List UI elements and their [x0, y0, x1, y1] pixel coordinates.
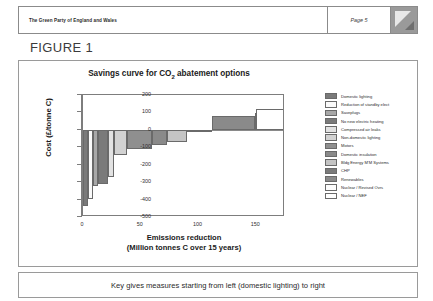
legend-item: Domestic lighting	[325, 92, 413, 100]
legend-swatch	[325, 93, 337, 99]
bar-renewables	[212, 116, 255, 130]
chart-container: Savings curve for CO2 abatement options …	[18, 60, 418, 267]
chart-title: Savings curve for CO2 abatement options	[19, 69, 319, 80]
y-tick-label: -300	[111, 178, 151, 184]
chart-title-prefix: Savings curve for CO	[88, 69, 171, 78]
x-tick-label: 50	[125, 221, 155, 227]
y-tick-label: 100	[111, 108, 151, 114]
figure-label: FIGURE 1	[30, 40, 93, 55]
y-tick-mark	[77, 181, 81, 182]
y-tick-label: -400	[111, 196, 151, 202]
y-tick-mark	[77, 199, 81, 200]
chart-title-suffix: abatement options	[175, 69, 250, 78]
legend-item: Saveplugs	[325, 109, 413, 117]
legend-item: Motors	[325, 142, 413, 150]
x-axis-title-line1: Emissions reduction	[59, 233, 309, 243]
legend-swatch	[325, 193, 337, 199]
legend-label: Non-domestic lighting	[341, 135, 380, 140]
legend-item: Bldg Energy M'M Systems	[325, 158, 413, 166]
y-tick-label: -100	[111, 143, 151, 149]
legend-label: Renewables	[341, 177, 364, 182]
legend-item: Compressed air leaks	[325, 125, 413, 133]
header-page-number: Page 5	[350, 17, 367, 23]
y-tick-mark	[77, 146, 81, 147]
y-tick-mark	[77, 216, 81, 217]
legend-label: No new electric heating	[341, 119, 384, 124]
bar-chp	[187, 130, 212, 132]
legend-swatch	[325, 143, 337, 149]
legend-label: Compressed air leaks	[341, 127, 381, 132]
y-tick-label: 0	[111, 126, 151, 132]
legend-item: Renewables	[325, 175, 413, 183]
chart-legend: Domestic lightingReduction of standby el…	[325, 92, 413, 200]
legend-label: Saveplugs	[341, 110, 360, 115]
caption-box: Key gives measures starting from left (d…	[18, 272, 418, 298]
bar-no-new-electric-heating	[98, 130, 108, 184]
legend-swatch	[325, 126, 337, 132]
x-tick-label: 150	[240, 221, 270, 227]
y-tick-mark	[77, 111, 81, 112]
legend-swatch	[325, 168, 337, 174]
header-org-cell: The Green Party of England and Wales	[19, 7, 327, 33]
legend-item: No new electric heating	[325, 117, 413, 125]
legend-swatch	[325, 176, 337, 182]
y-tick-label: -500	[111, 213, 151, 219]
logo-triangle-dark	[405, 21, 414, 30]
page-header: The Green Party of England and Wales Pag…	[18, 6, 418, 34]
legend-swatch	[325, 184, 337, 190]
y-axis-title: Cost (£/tonne C)	[44, 83, 53, 173]
bar-nuclear-nef	[256, 109, 284, 130]
caption-text: Key gives measures starting from left (d…	[111, 281, 325, 290]
legend-item: Nuclear / NEF	[325, 192, 413, 200]
legend-item: Reduction of standby elect	[325, 100, 413, 108]
x-tick-label: 0	[67, 221, 97, 227]
legend-label: Motors	[341, 143, 354, 148]
legend-swatch	[325, 159, 337, 165]
y-tick-mark	[77, 129, 81, 130]
bar-bldg-energy-m-m-systems	[167, 130, 187, 142]
x-tick-label: 100	[182, 221, 212, 227]
x-axis-title-line2: (Million tonnes C over 15 years)	[59, 243, 309, 253]
triangle-logo-icon	[390, 7, 417, 33]
legend-item: Nuclear / Revised Ovrs	[325, 183, 413, 191]
bar-domestic-insulation	[152, 130, 167, 145]
y-tick-label: -200	[111, 161, 151, 167]
legend-swatch	[325, 101, 337, 107]
legend-label: Nuclear / Revised Ovrs	[341, 185, 383, 190]
legend-swatch	[325, 134, 337, 140]
legend-item: Non-domestic lighting	[325, 133, 413, 141]
legend-label: Reduction of standby elect	[341, 102, 389, 107]
legend-item: Domestic insulation	[325, 150, 413, 158]
y-tick-label: 200	[111, 91, 151, 97]
legend-label: CHP	[341, 168, 350, 173]
legend-label: Domestic lighting	[341, 94, 372, 99]
legend-swatch	[325, 110, 337, 116]
x-axis-title: Emissions reduction (Million tonnes C ov…	[59, 233, 309, 253]
header-org-title: The Green Party of England and Wales	[29, 18, 117, 23]
y-tick-mark	[77, 164, 81, 165]
header-page-cell: Page 5	[327, 7, 390, 33]
legend-swatch	[325, 118, 337, 124]
y-tick-mark	[77, 94, 81, 95]
legend-swatch	[325, 151, 337, 157]
legend-label: Bldg Energy M'M Systems	[341, 160, 389, 165]
legend-label: Nuclear / NEF	[341, 193, 367, 198]
legend-label: Domestic insulation	[341, 152, 377, 157]
legend-item: CHP	[325, 167, 413, 175]
